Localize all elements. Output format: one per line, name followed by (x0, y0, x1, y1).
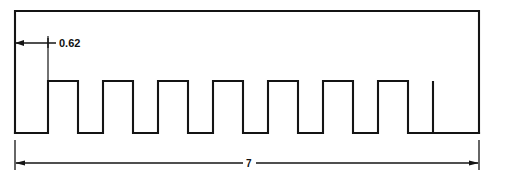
overall-length-dimension-label: 7 (246, 158, 252, 169)
length-arrow-left (15, 161, 25, 166)
tooth-profile (15, 81, 479, 133)
length-arrow-right (469, 161, 479, 166)
part-outline (15, 11, 479, 133)
pitch-dimension-label: 0.62 (59, 37, 80, 49)
drawing-svg: 0.62 7 (0, 0, 505, 181)
technical-drawing-canvas: 0.62 7 (0, 0, 505, 181)
pitch-arrow-left (15, 40, 24, 46)
pitch-dimension (15, 36, 56, 81)
